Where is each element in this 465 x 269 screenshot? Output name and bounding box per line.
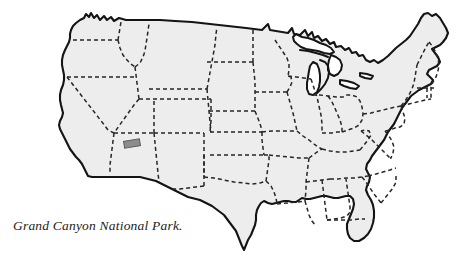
- border-sc-nc: [381, 176, 396, 203]
- border-va-nc: [368, 168, 396, 176]
- border-la-ms: [305, 201, 316, 226]
- map-figure: Grand Canyon National Park.: [0, 0, 465, 269]
- map-caption: Grand Canyon National Park.: [13, 218, 183, 234]
